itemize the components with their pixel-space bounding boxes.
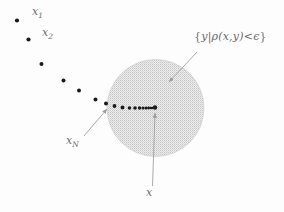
- label-limit-point-x: x: [146, 187, 152, 198]
- sequence-point-limit: [153, 105, 157, 109]
- sequence-point-x9: [121, 106, 125, 110]
- sequence-point-x13: [141, 106, 144, 109]
- label-x-n: xN: [66, 135, 79, 149]
- label-epsilon-ball-set: {y|ρ(x,y)<ϵ}: [194, 31, 267, 42]
- set-relation: <: [244, 30, 253, 43]
- sequence-point-x3: [40, 62, 44, 66]
- sequence-point-x5: [77, 89, 81, 93]
- sequence-point-x14: [145, 107, 148, 110]
- sequence-point-x4: [62, 79, 66, 83]
- sequence-point-x7: [104, 102, 108, 106]
- sequence-point-x6: [94, 98, 98, 102]
- label-x-1: x1: [32, 6, 43, 20]
- label-limit-point-base: x: [146, 186, 152, 199]
- sequence-point-x2: [26, 37, 30, 41]
- set-brace-close: }: [260, 30, 267, 43]
- sequence-point-x8: [113, 104, 117, 108]
- sequence-point-x12: [138, 106, 141, 109]
- label-x-2-subscript: 2: [48, 32, 53, 41]
- sequence-point-x1: [15, 18, 19, 22]
- set-metric-args: (x,y): [218, 30, 244, 43]
- sequence-point-x10: [128, 106, 132, 110]
- figure-canvas: x1 x2 xN x {y|ρ(x,y)<ϵ}: [0, 0, 284, 212]
- label-x-2: x2: [42, 27, 53, 41]
- label-x-1-subscript: 1: [38, 11, 43, 20]
- label-x-n-subscript: N: [72, 140, 79, 149]
- xn-label-arrow: [84, 109, 107, 136]
- sequence-point-x11: [133, 106, 137, 110]
